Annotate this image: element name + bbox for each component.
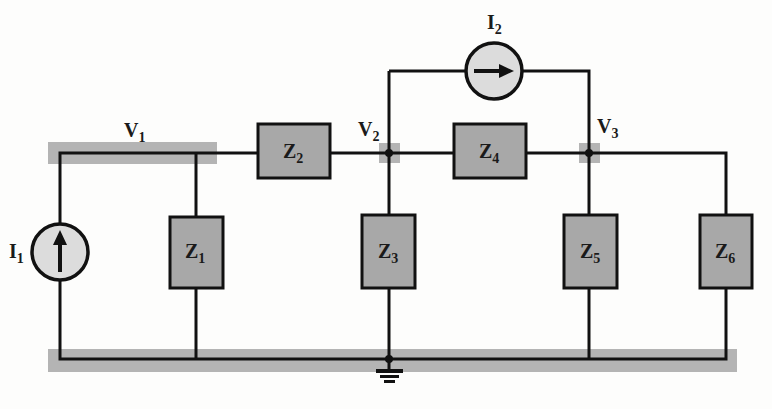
label-v1: V1 — [124, 119, 145, 145]
current-source-i2 — [466, 43, 522, 99]
label-v2: V2 — [358, 118, 379, 144]
node-v2-dot — [385, 149, 393, 157]
ground-node-dot — [385, 355, 393, 363]
current-source-i1 — [32, 224, 88, 280]
label-i1: I1 — [9, 240, 24, 266]
label-i2: I2 — [487, 11, 502, 37]
circuit-diagram: V1 V2 V3 I1 I2 Z1 Z2 Z3 Z4 Z5 Z6 — [0, 0, 772, 409]
ground-icon — [376, 369, 403, 383]
label-v3: V3 — [597, 115, 618, 141]
node-v3-dot — [585, 149, 593, 157]
